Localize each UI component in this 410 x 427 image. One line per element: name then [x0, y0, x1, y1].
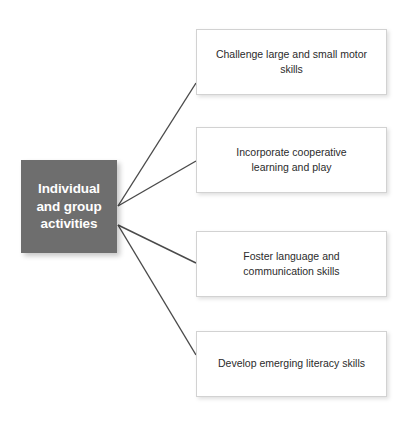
connector-line-4	[118, 225, 196, 355]
branch-node-2: Incorporate cooperative learning and pla…	[196, 127, 387, 193]
branch-node-4: Develop emerging literacy skills	[196, 331, 387, 397]
branch-node-1-label: Challenge large and small motor skills	[197, 47, 386, 77]
central-node-label: Individual and group activities	[21, 180, 117, 233]
connector-line-2	[118, 161, 196, 206]
diagram-canvas: Individual and group activities Challeng…	[0, 0, 410, 427]
branch-node-4-label: Develop emerging literacy skills	[208, 356, 375, 371]
connector-line-3	[118, 225, 196, 263]
central-node: Individual and group activities	[21, 160, 117, 253]
connector-line-1	[118, 83, 196, 206]
branch-node-1: Challenge large and small motor skills	[196, 29, 387, 95]
branch-node-2-label: Incorporate cooperative learning and pla…	[226, 145, 356, 175]
branch-node-3-label: Foster language and communication skills	[233, 249, 349, 279]
branch-node-3: Foster language and communication skills	[196, 231, 387, 297]
